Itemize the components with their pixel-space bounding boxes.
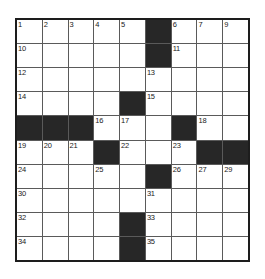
crossword-cell[interactable]: 31 xyxy=(146,189,171,212)
crossword-cell[interactable] xyxy=(94,92,119,115)
crossword-cell[interactable]: 12 xyxy=(17,68,42,91)
crossword-cell[interactable] xyxy=(120,68,145,91)
crossword-cell[interactable] xyxy=(197,189,222,212)
crossword-block-square xyxy=(69,116,94,139)
cell-number: 30 xyxy=(18,189,26,198)
crossword-cell[interactable]: 24 xyxy=(17,165,42,188)
cell-number: 26 xyxy=(173,165,181,174)
crossword-cell[interactable] xyxy=(43,189,68,212)
crossword-cell[interactable]: 34 xyxy=(17,237,42,260)
crossword-cell[interactable] xyxy=(223,92,248,115)
crossword-cell[interactable] xyxy=(94,237,119,260)
crossword-cell[interactable]: 18 xyxy=(197,116,222,139)
crossword-cell[interactable] xyxy=(120,189,145,212)
crossword-cell[interactable]: 6 xyxy=(172,20,197,43)
crossword-cell[interactable] xyxy=(197,213,222,236)
crossword-cell[interactable] xyxy=(197,68,222,91)
crossword-block-square xyxy=(120,92,145,115)
crossword-cell[interactable] xyxy=(43,44,68,67)
crossword-cell[interactable]: 25 xyxy=(94,165,119,188)
crossword-cell[interactable] xyxy=(43,92,68,115)
crossword-cell[interactable] xyxy=(69,189,94,212)
crossword-cell[interactable] xyxy=(223,116,248,139)
crossword-cell[interactable] xyxy=(69,68,94,91)
crossword-cell[interactable]: 22 xyxy=(120,141,145,164)
cell-number: 35 xyxy=(147,237,155,246)
crossword-cell[interactable]: 14 xyxy=(17,92,42,115)
crossword-cell[interactable] xyxy=(172,189,197,212)
crossword-block-square xyxy=(94,141,119,164)
crossword-cell[interactable] xyxy=(69,237,94,260)
cell-number: 20 xyxy=(44,141,52,150)
cell-number: 11 xyxy=(173,44,180,53)
crossword-cell[interactable] xyxy=(223,44,248,67)
cell-number: 23 xyxy=(173,141,181,150)
crossword-block-square xyxy=(223,141,248,164)
crossword-cell[interactable] xyxy=(197,237,222,260)
crossword-cell[interactable]: 27 xyxy=(197,165,222,188)
crossword-cell[interactable]: 19 xyxy=(17,141,42,164)
crossword-cell[interactable]: 10 xyxy=(17,44,42,67)
crossword-cell[interactable]: 35 xyxy=(146,237,171,260)
crossword-cell[interactable]: 15 xyxy=(146,92,171,115)
crossword-cell[interactable]: 32 xyxy=(17,213,42,236)
cell-number: 24 xyxy=(18,165,26,174)
crossword-cell[interactable] xyxy=(223,213,248,236)
crossword-cell[interactable] xyxy=(94,68,119,91)
crossword-cell[interactable]: 11 xyxy=(172,44,197,67)
crossword-cell[interactable]: 3 xyxy=(69,20,94,43)
crossword-cell[interactable]: 20 xyxy=(43,141,68,164)
crossword-cell[interactable] xyxy=(69,92,94,115)
crossword-cell[interactable] xyxy=(120,44,145,67)
crossword-cell[interactable] xyxy=(197,44,222,67)
crossword-cell[interactable]: 5 xyxy=(120,20,145,43)
crossword-cell[interactable] xyxy=(43,237,68,260)
cell-number: 3 xyxy=(70,20,74,29)
crossword-block-square xyxy=(146,165,171,188)
crossword-cell[interactable]: 29 xyxy=(223,165,248,188)
crossword-cell[interactable] xyxy=(172,213,197,236)
crossword-grid[interactable]: 1234567910111213141516171819202122232425… xyxy=(15,18,250,262)
crossword-cell[interactable]: 23 xyxy=(172,141,197,164)
cell-number: 5 xyxy=(121,20,125,29)
crossword-cell[interactable]: 17 xyxy=(120,116,145,139)
crossword-cell[interactable]: 2 xyxy=(43,20,68,43)
crossword-cell[interactable] xyxy=(69,213,94,236)
crossword-cell[interactable] xyxy=(120,165,145,188)
crossword-cell[interactable] xyxy=(69,44,94,67)
cell-number: 31 xyxy=(147,189,155,198)
cell-number: 22 xyxy=(121,141,129,150)
crossword-cell[interactable]: 30 xyxy=(17,189,42,212)
crossword-cell[interactable]: 7 xyxy=(197,20,222,43)
crossword-cell[interactable] xyxy=(223,237,248,260)
crossword-cell[interactable] xyxy=(43,68,68,91)
crossword-cell[interactable] xyxy=(43,165,68,188)
crossword-cell[interactable] xyxy=(94,189,119,212)
crossword-cell[interactable] xyxy=(197,92,222,115)
crossword-cell[interactable] xyxy=(172,237,197,260)
cell-number: 32 xyxy=(18,213,26,222)
crossword-cell[interactable]: 26 xyxy=(172,165,197,188)
crossword-cell[interactable] xyxy=(223,189,248,212)
crossword-cell[interactable]: 16 xyxy=(94,116,119,139)
crossword-cell[interactable]: 13 xyxy=(146,68,171,91)
crossword-cell[interactable] xyxy=(146,141,171,164)
crossword-cell[interactable] xyxy=(94,213,119,236)
crossword-cell[interactable] xyxy=(43,213,68,236)
crossword-cell[interactable]: 9 xyxy=(223,20,248,43)
cell-number: 1 xyxy=(18,20,22,29)
crossword-cell[interactable]: 21 xyxy=(69,141,94,164)
crossword-block-square xyxy=(120,237,145,260)
crossword-cell[interactable] xyxy=(69,165,94,188)
crossword-cell[interactable] xyxy=(172,92,197,115)
crossword-cell[interactable] xyxy=(223,68,248,91)
crossword-cell[interactable]: 33 xyxy=(146,213,171,236)
crossword-cell[interactable]: 4 xyxy=(94,20,119,43)
crossword-cell[interactable] xyxy=(172,68,197,91)
crossword-cell[interactable]: 1 xyxy=(17,20,42,43)
cell-number: 13 xyxy=(147,68,155,77)
cell-number: 14 xyxy=(18,92,26,101)
crossword-cell[interactable] xyxy=(94,44,119,67)
cell-number: 21 xyxy=(70,141,78,150)
crossword-cell[interactable] xyxy=(146,116,171,139)
